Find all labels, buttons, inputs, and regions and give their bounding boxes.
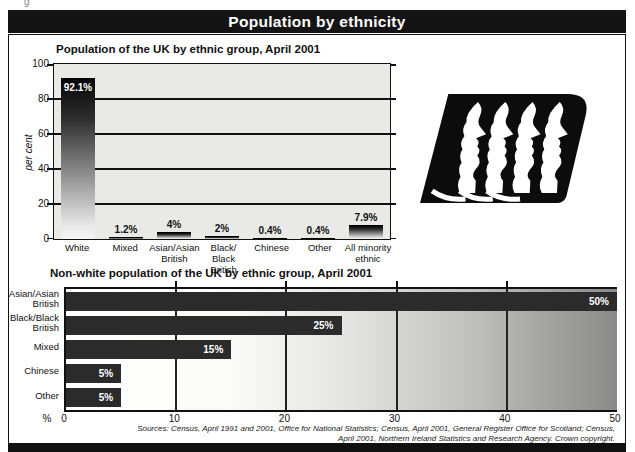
axis-tick — [396, 281, 398, 287]
bottom-chart-title: Non-white population of the UK by ethnic… — [50, 267, 372, 279]
bar — [301, 238, 335, 240]
gridline — [54, 168, 390, 170]
value-label: 1.2% — [102, 224, 150, 235]
axis-tick — [47, 133, 53, 135]
bar — [205, 236, 239, 240]
axis-tick — [47, 203, 53, 205]
y-tick-label: 40 — [19, 163, 49, 174]
category-label: Black/BlackBritish — [9, 311, 59, 335]
cropped-text-fragment: g — [24, 0, 30, 7]
axis-tick — [47, 64, 53, 66]
category-label: Asian/AsianBritish — [9, 287, 59, 311]
x-tick-label: 0 — [52, 413, 76, 424]
x-tick-label: 30 — [383, 413, 407, 424]
axis-tick — [390, 168, 396, 170]
axis-tick — [47, 168, 53, 170]
axis-tick — [285, 281, 287, 287]
figure-title: Population by ethnicity — [228, 13, 405, 30]
bar: 15% — [66, 340, 231, 359]
bar — [349, 225, 383, 239]
value-label: 5% — [99, 388, 113, 407]
bottom-border-rule — [8, 444, 626, 452]
bottom-chart-plot-area: 50%25%15%5%5% — [64, 287, 617, 412]
gridline — [54, 133, 390, 135]
value-label: 5% — [99, 364, 113, 383]
value-label: 15% — [203, 340, 223, 359]
figure-content: Population of the UK by ethnic group, Ap… — [8, 34, 626, 444]
source-note: Sources: Census, April 1991 and 2001, Of… — [55, 424, 615, 443]
axis-tick — [390, 64, 396, 66]
bar: 50% — [66, 292, 617, 311]
bar — [109, 237, 143, 239]
category-label: Other — [9, 384, 59, 408]
x-tick-label: 10 — [162, 413, 186, 424]
category-label: Chinese — [9, 360, 59, 384]
bar: 25% — [66, 316, 342, 335]
y-tick-label: 60 — [19, 128, 49, 139]
source-line-2: April 2001, Northern Ireland Statistics … — [55, 434, 615, 444]
value-label: 7.9% — [342, 212, 390, 223]
value-label: 2% — [198, 223, 246, 234]
source-line-1: Sources: Census, April 1991 and 2001, Of… — [55, 424, 615, 434]
bar — [61, 78, 95, 239]
axis-tick — [390, 238, 396, 240]
bar — [253, 238, 287, 240]
top-chart-title: Population of the UK by ethnic group, Ap… — [56, 43, 320, 55]
value-label: 0.4% — [294, 225, 342, 236]
value-label: 25% — [313, 316, 333, 335]
axis-tick — [47, 98, 53, 100]
y-tick-label: 100 — [19, 58, 49, 69]
bar: 5% — [66, 388, 121, 407]
y-tick-label: 0 — [19, 233, 49, 244]
axis-tick — [390, 133, 396, 135]
axis-tick — [390, 203, 396, 205]
y-tick-label: 20 — [19, 198, 49, 209]
bottom-chart-category-axis: Asian/AsianBritishBlack/BlackBritishMixe… — [9, 287, 59, 408]
y-tick-label: 80 — [19, 93, 49, 104]
figure-page: g Population by ethnicity Population of … — [0, 0, 635, 452]
bar: 5% — [66, 364, 121, 383]
bar — [157, 232, 191, 239]
value-label: 0.4% — [246, 225, 294, 236]
gridline — [54, 203, 390, 205]
axis-tick — [506, 281, 508, 287]
axis-tick — [390, 98, 396, 100]
top-chart-y-axis: 020406080100 — [17, 63, 51, 238]
top-chart-plot-area: 92.1%1.2%4%2%0.4%0.4%7.9% — [53, 63, 391, 240]
figure-title-bar: Population by ethnicity — [8, 10, 626, 33]
value-label: 4% — [150, 219, 198, 230]
axis-tick — [47, 238, 53, 240]
x-tick-label: 40 — [493, 413, 517, 424]
gridline — [54, 98, 390, 100]
value-label: 50% — [589, 292, 609, 311]
x-tick-label: 50 — [603, 413, 627, 424]
axis-tick — [175, 281, 177, 287]
value-label: 92.1% — [54, 82, 102, 93]
category-label: Mixed — [9, 335, 59, 359]
ethnic-faces-graphic — [416, 89, 618, 217]
x-tick-label: 20 — [272, 413, 296, 424]
